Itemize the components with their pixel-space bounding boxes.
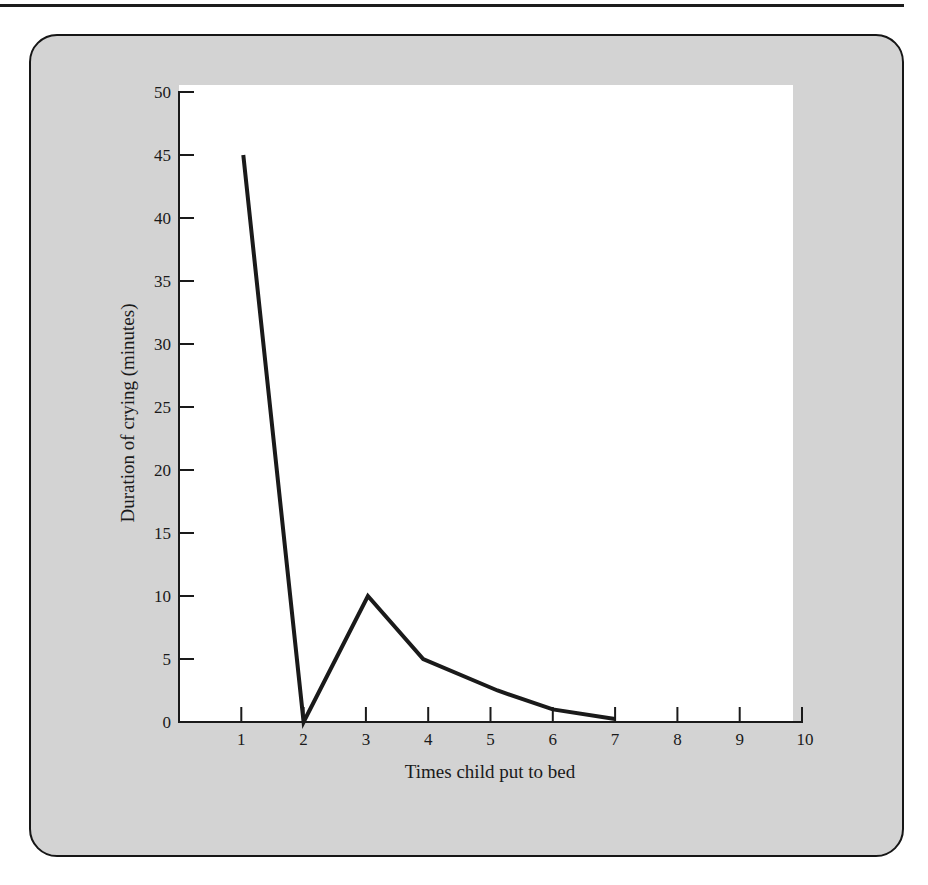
y-tick-label: 15: [154, 524, 171, 543]
y-tick-label: 25: [154, 398, 171, 417]
y-tick-label: 35: [154, 272, 171, 291]
y-tick-label: 50: [154, 83, 171, 102]
y-tick-label: 20: [154, 461, 171, 480]
x-tick-label: 5: [486, 730, 495, 749]
x-tick-label: 9: [735, 730, 744, 749]
y-tick-label: 0: [163, 713, 172, 732]
x-tick-label: 2: [299, 730, 308, 749]
x-tick-label: 3: [362, 730, 371, 749]
y-tick-label: 40: [154, 209, 171, 228]
x-tick-label: 6: [549, 730, 558, 749]
x-tick-label: 7: [611, 730, 620, 749]
x-tick-label: 10: [797, 730, 814, 749]
x-tick-label: 4: [424, 730, 433, 749]
y-tick-label: 5: [163, 650, 172, 669]
x-tick-label: 1: [237, 730, 246, 749]
y-tick-label: 30: [154, 335, 171, 354]
x-axis-title: Times child put to bed: [405, 761, 576, 782]
y-tick-label: 45: [154, 146, 171, 165]
x-tick-label: 8: [673, 730, 682, 749]
y-tick-label: 10: [154, 587, 171, 606]
line-chart: 05101520253035404550 12345678910 Times c…: [0, 0, 928, 885]
y-axis-title: Duration of crying (minutes): [117, 304, 139, 523]
